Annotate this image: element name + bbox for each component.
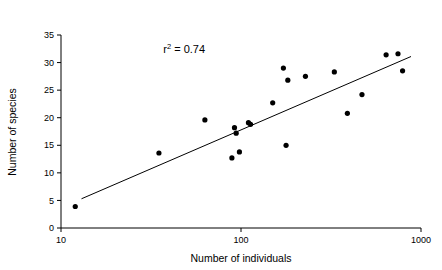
data-point: [202, 117, 207, 122]
data-point: [73, 204, 78, 209]
data-point: [395, 51, 400, 56]
y-axis-tick-label: 25: [44, 85, 54, 95]
y-axis-tick-label: 35: [44, 30, 54, 40]
x-axis-title: Number of individuals: [191, 252, 292, 264]
data-point: [270, 100, 275, 105]
r-squared-value: = 0.74: [171, 43, 205, 55]
data-point: [332, 69, 337, 74]
data-point: [303, 74, 308, 79]
y-axis-tick-label: 10: [44, 168, 54, 178]
data-point: [229, 155, 234, 160]
species-individuals-scatter-plot: 05101520253035 101001000 r2 = 0.74 Numbe…: [0, 0, 442, 270]
chart-figure: 05101520253035 101001000 r2 = 0.74 Numbe…: [0, 0, 442, 270]
x-axis-tick-label: 10: [56, 235, 66, 245]
data-point: [359, 92, 364, 97]
x-axis-tick-label: 1000: [411, 235, 431, 245]
data-point: [345, 111, 350, 116]
y-axis-tick-label: 0: [49, 223, 54, 233]
data-point: [283, 143, 288, 148]
data-point: [384, 52, 389, 57]
data-point: [234, 131, 239, 136]
data-point: [156, 150, 161, 155]
y-axis-tick-label: 30: [44, 58, 54, 68]
y-axis-tick-label: 15: [44, 140, 54, 150]
data-point: [285, 78, 290, 83]
chart-background: [0, 0, 442, 270]
x-axis-tick-label: 100: [233, 235, 248, 245]
y-axis-title: Number of species: [6, 88, 18, 176]
y-axis-tick-label: 5: [49, 196, 54, 206]
data-point: [281, 65, 286, 70]
data-point: [232, 125, 237, 130]
data-point: [400, 68, 405, 73]
data-point: [237, 149, 242, 154]
y-axis-tick-label: 20: [44, 113, 54, 123]
data-point: [248, 122, 253, 127]
